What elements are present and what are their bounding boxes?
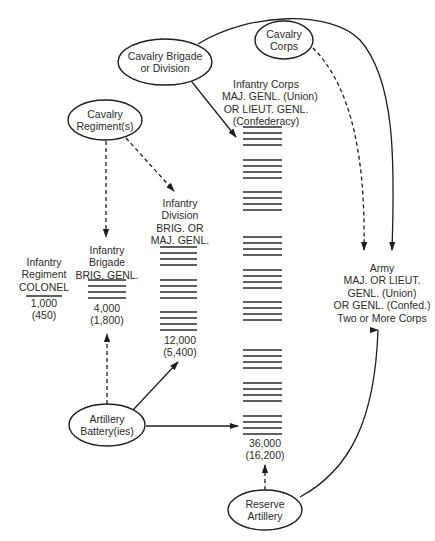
strength-regiment: 1,000 (450) xyxy=(20,297,68,322)
title-infantry-regiment: Infantry Regiment COLONEL xyxy=(14,256,74,293)
label-cavalry-brigade: Cavalry Brigade or Division xyxy=(118,50,212,75)
label-cavalry-regiment: Cavalry Regiment(s) xyxy=(68,108,142,133)
title-infantry-brigade: Infantry Brigade BRIG. GENL. xyxy=(74,244,140,281)
edge-cavalry-corps-to-army xyxy=(313,48,364,250)
title-army: Army MAJ. OR LIEUT. GENL. (Union) OR GEN… xyxy=(330,262,434,324)
edge-reserve-artillery-to-army xyxy=(300,330,378,497)
label-cavalry-corps: Cavalry Corps xyxy=(255,28,313,53)
strength-corps: 36,000 (16,200) xyxy=(238,437,292,462)
strength-brigade: 4,000 (1,800) xyxy=(82,302,132,327)
strength-division: 12,000 (5,400) xyxy=(155,334,205,359)
edge-cavalry-regiment-to-division xyxy=(126,138,174,191)
edge-artillery-battery-to-division xyxy=(133,362,178,410)
label-reserve-artillery: Reserve Artillery xyxy=(228,498,302,523)
title-infantry-division: Infantry Division BRIG. OR MAJ. GENL. xyxy=(150,197,210,247)
title-infantry-corps: Infantry Corps MAJ. GENL. (Union) OR LIE… xyxy=(222,78,310,128)
label-artillery-battery: Artillery Battery(ies) xyxy=(69,413,145,438)
